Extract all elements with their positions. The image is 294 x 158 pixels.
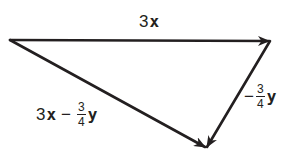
label-diagonal-variable-x: x xyxy=(46,107,56,123)
label-right-variable-y: y xyxy=(267,89,277,105)
fraction-numerator: 3 xyxy=(256,83,265,97)
label-diagonal-fraction: 3 4 xyxy=(77,101,86,128)
fraction-numerator: 3 xyxy=(77,101,86,115)
label-top-vector: 3 x xyxy=(139,13,159,30)
label-right-vector: − 3 4 y xyxy=(244,83,276,110)
label-diagonal-minus: − xyxy=(61,106,71,123)
fraction-denominator: 4 xyxy=(78,115,85,128)
label-right-minus: − xyxy=(244,88,254,105)
vector-3x-minus-three-quarters-y-arrow xyxy=(10,40,205,147)
vector-3x-arrow xyxy=(10,40,269,41)
fraction-denominator: 4 xyxy=(257,97,264,110)
label-diagonal-variable-y: y xyxy=(88,107,98,123)
label-diagonal-vector: 3 x − 3 4 y xyxy=(36,101,97,128)
label-top-variable: x xyxy=(149,14,159,30)
label-diagonal-coefficient: 3 xyxy=(36,106,45,123)
label-top-coefficient: 3 xyxy=(139,13,148,30)
label-right-fraction: 3 4 xyxy=(256,83,265,110)
